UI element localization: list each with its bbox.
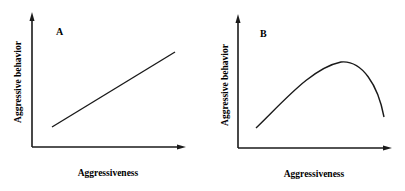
y-axis-arrow-icon bbox=[30, 12, 35, 21]
x-axis-arrow-icon bbox=[383, 146, 392, 151]
x-axis-label-b: Aggressiveness bbox=[284, 169, 345, 179]
x-axis-arrow-icon bbox=[177, 145, 186, 150]
y-axis-label-b: Aggressive behavior bbox=[220, 43, 230, 126]
inverted-u-curve bbox=[256, 62, 384, 128]
panel-label-a: A bbox=[56, 26, 64, 37]
y-axis-arrow-icon bbox=[236, 14, 241, 23]
panel-a: A Aggressive behavior Aggressiveness bbox=[13, 12, 186, 178]
panel-label-b: B bbox=[260, 28, 267, 39]
panel-b: B Aggressive behavior Aggressiveness bbox=[220, 14, 392, 179]
figure: A Aggressive behavior Aggressiveness B A… bbox=[0, 0, 405, 191]
x-axis-label-a: Aggressiveness bbox=[78, 168, 139, 178]
y-axis-label-a: Aggressive behavior bbox=[13, 40, 23, 123]
linear-curve bbox=[52, 52, 175, 127]
